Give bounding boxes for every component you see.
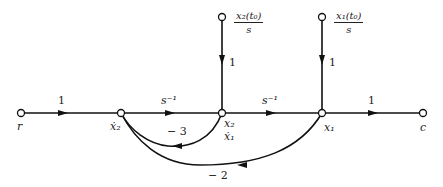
gain-ic1-x1: 1 xyxy=(329,57,336,68)
node-c xyxy=(420,110,427,117)
arrow-icon xyxy=(58,110,68,116)
node-label-x1: x₁ xyxy=(324,122,335,133)
node-x2dot xyxy=(118,110,125,117)
arrow-icon xyxy=(172,143,182,149)
ic2-denominator: s xyxy=(234,23,263,35)
ic1-numerator: x₁(t₀) xyxy=(334,10,363,23)
node-r xyxy=(18,110,25,117)
initial-condition-x2: x₂(t₀) s xyxy=(234,10,263,35)
gain-x1-c: 1 xyxy=(368,95,375,106)
node-label-x2dot: ẋ₂ xyxy=(110,121,121,132)
arrow-icon xyxy=(368,110,378,116)
gain-feedback-minus3: − 3 xyxy=(167,126,187,137)
graph-lines xyxy=(0,0,443,187)
arrow-icon xyxy=(219,55,225,65)
node-x2 xyxy=(219,110,226,117)
ic1-denominator: s xyxy=(334,23,363,35)
gain-feedback-minus2: − 2 xyxy=(208,170,228,181)
signal-flow-graph: r ẋ₂ x₂ ẋ₁ x₁ c x₂(t₀) s x₁(t₀) s 1 s⁻¹ … xyxy=(0,0,443,187)
gain-x2dot-x2: s⁻¹ xyxy=(161,95,177,106)
gain-x2-x1: s⁻¹ xyxy=(262,95,278,106)
gain-r-x2dot: 1 xyxy=(58,95,65,106)
node-ic2 xyxy=(219,14,226,21)
initial-condition-x1: x₁(t₀) s xyxy=(334,10,363,35)
node-sublabel-x1dot: ẋ₁ xyxy=(224,131,235,142)
ic2-numerator: x₂(t₀) xyxy=(234,10,263,23)
node-ic1 xyxy=(319,14,326,21)
node-label-r: r xyxy=(17,121,22,132)
node-x1 xyxy=(319,110,326,117)
gain-ic2-x2: 1 xyxy=(229,57,236,68)
node-label-x2: x₂ xyxy=(224,118,235,129)
arrow-icon xyxy=(266,110,276,116)
branch-feedback-minus2 xyxy=(121,113,322,165)
arrow-icon xyxy=(319,55,325,65)
arrow-icon xyxy=(165,110,175,116)
node-label-c: c xyxy=(420,122,426,133)
